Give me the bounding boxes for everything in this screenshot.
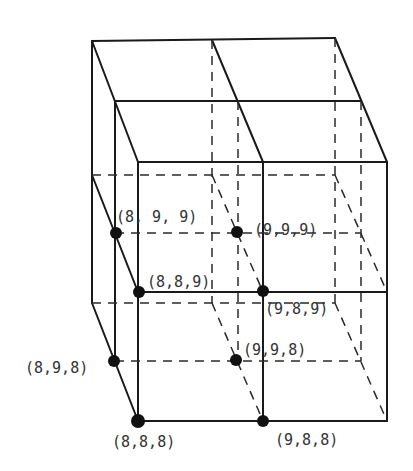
- lattice-point: [257, 415, 269, 427]
- point-label: (8,8,9): [147, 273, 210, 291]
- diagram-canvas: (8, 9, 9)(9,9,9)(8,8,9)(9,8,9)(8,9,8)(9,…: [0, 0, 413, 471]
- lattice-point: [257, 285, 269, 297]
- point-label: (8,8,8): [112, 433, 175, 451]
- lattice-point: [108, 355, 120, 367]
- point-label: (9,9,9): [254, 221, 317, 239]
- lattice-point: [231, 226, 243, 238]
- point-label: (9,8,9): [265, 300, 328, 318]
- lattice-point: [133, 286, 145, 298]
- lattice-point: [110, 227, 122, 239]
- lattice-points: (8, 9, 9)(9,9,9)(8,8,9)(9,8,9)(8,9,8)(9,…: [25, 208, 338, 451]
- point-label: (9,9,8): [243, 341, 306, 359]
- lattice-point: [230, 354, 242, 366]
- point-label: (8, 9, 9): [116, 208, 197, 226]
- lattice-point: [131, 414, 145, 428]
- point-label: (8,9,8): [25, 359, 88, 377]
- lattice-wireframe: (8, 9, 9)(9,9,9)(8,8,9)(9,8,9)(8,9,8)(9,…: [0, 0, 413, 471]
- point-label: (9,8,8): [275, 431, 338, 449]
